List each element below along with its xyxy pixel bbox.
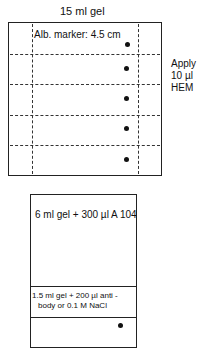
apply-line-2: 10 µl xyxy=(171,70,196,82)
divider-1 xyxy=(30,286,137,287)
well-dot-2 xyxy=(124,66,129,71)
dashed-vertical-left xyxy=(32,24,33,174)
apply-label: Apply 10 µl HEM xyxy=(171,58,196,94)
well-dot-4 xyxy=(124,126,129,131)
apply-line-1: Apply xyxy=(171,58,196,70)
dashed-horizontal-3 xyxy=(10,115,160,116)
dashed-vertical-right xyxy=(138,24,139,174)
middle-line-1: 1.5 ml gel + 200 µl anti - xyxy=(32,291,118,301)
top-plate-title: 15 ml gel xyxy=(60,6,105,17)
apply-line-3: HEM xyxy=(171,82,196,94)
dashed-horizontal-2 xyxy=(10,84,160,85)
well-dot-5 xyxy=(124,157,129,162)
well-dot-1 xyxy=(125,42,130,47)
bottom-upper-label: 6 ml gel + 300 µl A 104 xyxy=(35,210,137,220)
dashed-horizontal-1 xyxy=(10,54,160,55)
bottom-middle-label: 1.5 ml gel + 200 µl anti - body or 0.1 M… xyxy=(32,291,118,311)
well-dot-3 xyxy=(124,96,129,101)
middle-line-2: body or 0.1 M NaCl xyxy=(32,301,118,311)
albumin-marker-label: Alb. marker: 4.5 cm xyxy=(34,30,121,40)
dashed-horizontal-4 xyxy=(10,145,160,146)
bottom-well-dot xyxy=(118,323,123,328)
divider-2 xyxy=(30,317,137,318)
